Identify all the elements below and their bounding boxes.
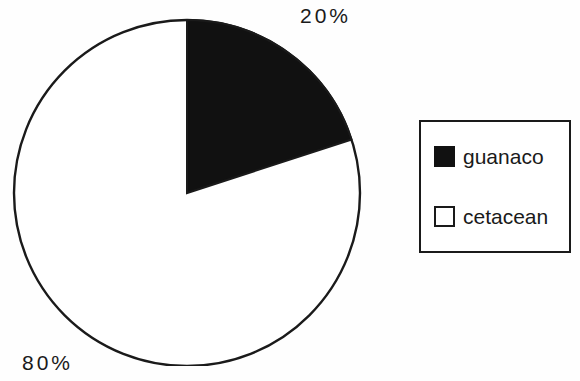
- legend-swatch-cetacean-icon: [434, 206, 455, 227]
- pie-chart-svg: [12, 16, 362, 366]
- pie-chart-figure: 20% 80% guanaco cetacean: [0, 0, 580, 381]
- legend-swatch-guanaco-icon: [434, 146, 455, 167]
- legend-item-guanaco[interactable]: guanaco: [434, 146, 544, 167]
- chart-legend: guanaco cetacean: [419, 120, 571, 253]
- legend-label-guanaco: guanaco: [463, 146, 544, 167]
- legend-label-cetacean: cetacean: [463, 206, 548, 227]
- pie-label-guanaco-percent: 20%: [300, 5, 351, 26]
- pie-chart-plot-area: [12, 16, 362, 366]
- pie-label-cetacean-percent: 80%: [22, 352, 73, 373]
- legend-item-cetacean[interactable]: cetacean: [434, 206, 548, 227]
